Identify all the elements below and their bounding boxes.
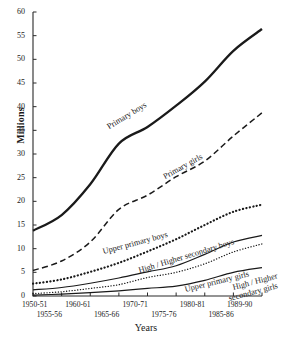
chart-figure: Millions Years 051015202530354045505560 … [0,0,292,340]
axis-lines [33,12,262,296]
series-line-primary-boys [33,29,262,231]
